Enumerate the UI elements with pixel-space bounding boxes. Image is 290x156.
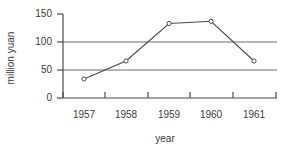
y-tick-label-150: 150: [26, 9, 52, 19]
data-point-1957: [82, 77, 86, 81]
y-tick-label-100: 100: [26, 37, 52, 47]
line-chart: 150 100 50 0 1957 1958 1959 1960 1961 ye…: [0, 0, 290, 156]
y-tick-label-50: 50: [26, 65, 52, 75]
data-point-1959: [167, 21, 171, 25]
data-point-1960: [209, 19, 213, 23]
data-point-markers: [82, 19, 256, 81]
y-tick-label-0: 0: [26, 93, 52, 103]
x-tick-label-1958: 1958: [105, 110, 147, 120]
x-tick-label-1961: 1961: [233, 110, 275, 120]
x-tick-label-1957: 1957: [63, 110, 105, 120]
data-point-1958: [124, 59, 128, 63]
x-tick-label-1960: 1960: [190, 110, 232, 120]
y-axis-title: million yuan: [6, 28, 16, 88]
plot-area: 150 100 50 0 1957 1958 1959 1960 1961 ye…: [0, 0, 290, 156]
x-axis-title: year: [135, 134, 195, 144]
chart-canvas: [0, 0, 290, 156]
data-point-1961: [252, 59, 256, 63]
x-tick-label-1959: 1959: [148, 110, 190, 120]
